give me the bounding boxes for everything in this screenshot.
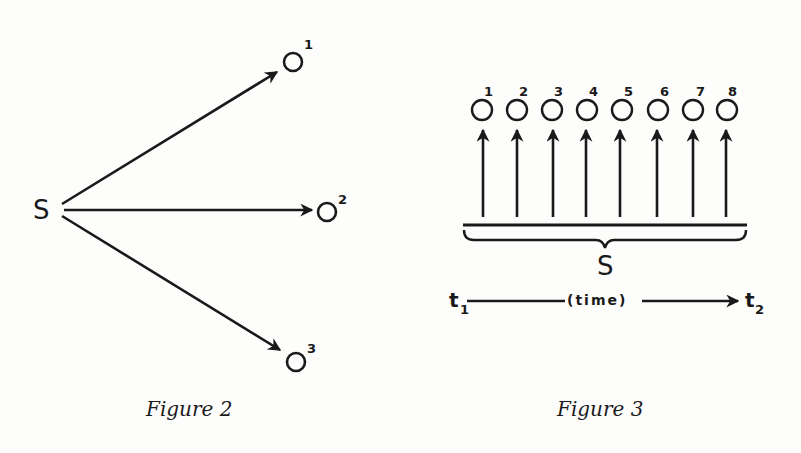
outcome-2-label: 2	[519, 85, 528, 98]
source-s-label: S	[597, 253, 614, 279]
outcome-7-label: 7	[696, 85, 705, 98]
outcome-1-node	[472, 100, 492, 120]
timeline-label: (time)	[566, 293, 628, 307]
time-start-subscript: 1	[460, 303, 469, 316]
outcome-4-label: 4	[589, 85, 598, 98]
figure-3-drawing	[0, 0, 801, 453]
outcome-2-node	[507, 100, 527, 120]
outcome-5-label: 5	[624, 85, 633, 98]
outcome-6-node	[648, 100, 668, 120]
outcome-8-node	[717, 100, 737, 120]
source-brace	[464, 230, 746, 248]
figure-page: S 1 2 3 Figure 2	[0, 0, 801, 453]
time-end-label: t	[745, 290, 755, 310]
outcome-3-node	[542, 100, 562, 120]
time-end-subscript: 2	[755, 303, 764, 316]
time-start-label: t	[449, 290, 459, 310]
outcome-7-node	[683, 100, 703, 120]
outcome-8-label: 8	[728, 85, 737, 98]
outcome-6-label: 6	[660, 85, 669, 98]
outcome-1-label: 1	[484, 85, 493, 98]
outcome-5-node	[612, 100, 632, 120]
outcome-4-node	[577, 100, 597, 120]
outcome-3-label: 3	[554, 85, 563, 98]
outcome-circles	[472, 100, 737, 120]
figure-3-caption: Figure 3	[557, 399, 643, 419]
outcome-arrows	[483, 130, 726, 217]
